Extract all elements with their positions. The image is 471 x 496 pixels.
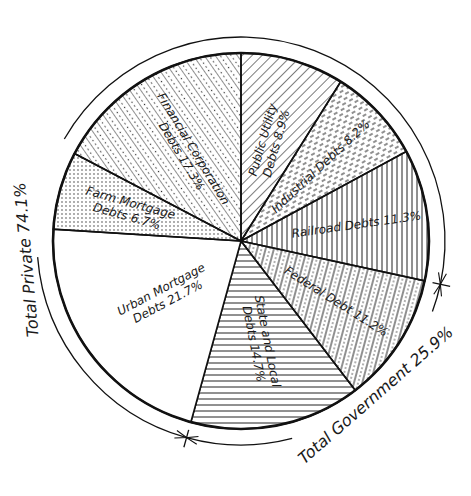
government-arc-start [432,284,440,311]
government-arc-end [187,438,293,445]
pie-chart: Public UtilityDebts 8.9%Industrial Debts… [0,0,471,496]
